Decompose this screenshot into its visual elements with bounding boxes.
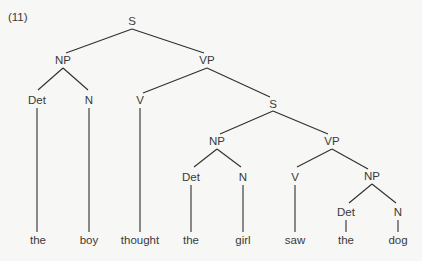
edge-np2-det (194, 149, 217, 167)
word: girl (235, 234, 250, 246)
edge-s-vp (132, 29, 204, 53)
edge-s2-vp (273, 111, 328, 134)
word: the (30, 234, 46, 246)
word: dog (388, 234, 407, 246)
node-np-object: NP (364, 170, 380, 182)
edge-np3-n (372, 184, 396, 203)
edge-vp2-v (297, 149, 332, 167)
word: boy (80, 234, 99, 246)
word: the (183, 234, 199, 246)
node-vp-embedded: VP (324, 135, 340, 147)
node-vp: VP (199, 54, 215, 66)
node-det-embedded: Det (182, 171, 201, 183)
node-v: V (136, 94, 144, 106)
node-np: NP (55, 54, 71, 66)
node-s-embedded: S (269, 98, 277, 110)
edge-np2-n (217, 149, 241, 167)
edge-np-det (38, 68, 63, 90)
node-det: Det (28, 94, 47, 106)
node-n-object: N (394, 206, 402, 218)
node-n-embedded: N (239, 171, 247, 183)
node-np-embedded: NP (209, 135, 225, 147)
node-v-embedded: V (291, 171, 299, 183)
edge-s2-np (220, 111, 273, 134)
node-s: S (128, 15, 136, 27)
word: thought (121, 234, 160, 246)
edge-np3-det (349, 184, 372, 203)
edge-vp2-np (332, 149, 368, 169)
syntax-tree-diagram: (11) S NP VP Det N V S NP VP Det N V NP … (0, 0, 422, 261)
example-number: (11) (8, 11, 28, 23)
edge-np-n (63, 68, 88, 90)
edge-s-np (66, 29, 132, 53)
edge-vp-s (207, 68, 270, 97)
node-n: N (85, 94, 93, 106)
word: saw (285, 234, 306, 246)
word: the (338, 234, 354, 246)
edge-vp-v (143, 68, 207, 93)
node-det-object: Det (337, 206, 356, 218)
